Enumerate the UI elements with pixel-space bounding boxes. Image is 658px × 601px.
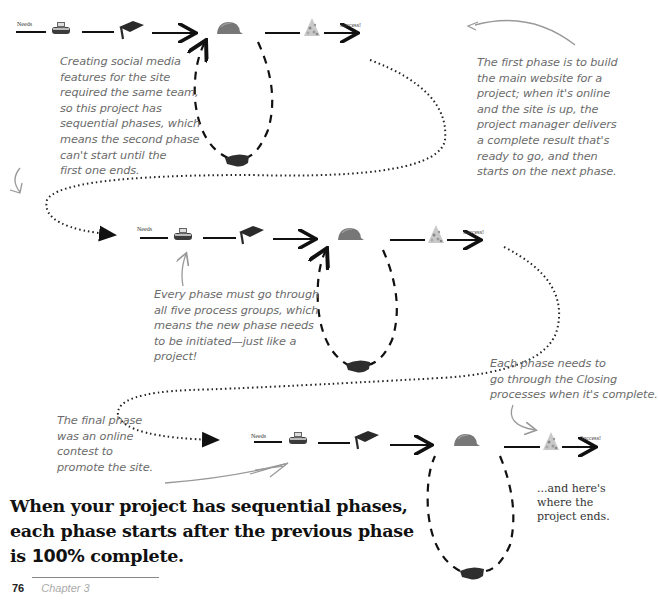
initiating-hat-icon <box>289 432 307 444</box>
monitoring-loop-right <box>245 42 272 158</box>
planning-cap-icon <box>239 226 264 244</box>
annotation-arrow <box>165 464 285 483</box>
success-label: Success! <box>580 435 601 441</box>
chapter-label: Chapter 3 <box>41 582 89 594</box>
page-footer: 76 Chapter 3 <box>12 582 90 594</box>
closing-party-hat-icon <box>543 432 559 450</box>
annotation-closing: Each phase needs to go through the Closi… <box>490 356 658 403</box>
monitoring-police-hat-icon <box>346 360 370 372</box>
initiating-hat-icon <box>174 228 192 240</box>
success-label: Success! <box>340 22 361 28</box>
annotation-first-phase: The first phase is to build the main web… <box>477 55 618 180</box>
annotation-arrow <box>475 21 575 46</box>
executing-hard-hat-icon <box>217 22 243 34</box>
monitoring-police-hat-icon <box>225 154 249 166</box>
annotation-social-media: Creating social media features for the s… <box>60 54 200 179</box>
planning-cap-icon <box>119 21 144 39</box>
success-label: Success! <box>463 229 484 235</box>
key-takeaway-headline: When your project has sequential phases,… <box>10 494 414 569</box>
annotation-arrow <box>511 405 535 430</box>
annotation-arrow <box>182 254 186 286</box>
closing-party-hat-icon <box>428 225 444 243</box>
percent-complete: 100% <box>32 546 85 566</box>
monitoring-police-hat-icon <box>460 567 484 579</box>
closing-party-hat-icon <box>304 18 320 36</box>
executing-hard-hat-icon <box>338 228 364 240</box>
needs-label: Needs <box>251 433 266 439</box>
planning-cap-icon <box>354 431 379 449</box>
annotation-arrow <box>15 168 20 192</box>
annotation-final-phase: The final phase was an online contest to… <box>57 413 153 475</box>
needs-label: Needs <box>137 226 152 232</box>
annotation-project-ends: ...and here's where the project ends. <box>537 482 610 524</box>
needs-label: Needs <box>17 21 32 27</box>
annotation-every-phase: Every phase must go through all five pro… <box>154 287 319 365</box>
page-number: 76 <box>12 582 24 594</box>
footer-rule <box>32 577 159 578</box>
executing-hard-hat-icon <box>454 434 480 446</box>
initiating-hat-icon <box>52 22 70 34</box>
